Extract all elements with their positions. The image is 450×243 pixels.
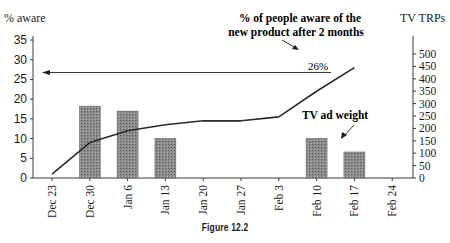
annotation-title-line2: new product after 2 months <box>228 26 364 39</box>
reference-label-26-percent: 26% <box>308 60 328 72</box>
bar <box>306 138 327 178</box>
annotation-tv-ad-weight: TV ad weight <box>302 109 368 122</box>
right-axis-tick-label: 0 <box>419 172 425 184</box>
left-axis-tick-label: 0 <box>20 171 27 185</box>
x-axis-tick-label: Jan 13 <box>159 185 171 215</box>
right-axis-tick-label: 200 <box>419 122 437 134</box>
right-axis: 050100150200250300350400450500 <box>413 36 437 184</box>
left-axis-tick-label: 25 <box>14 72 28 86</box>
annotation-pointer-arrow-icon <box>282 40 299 50</box>
left-axis: 05101520253035 <box>14 33 33 185</box>
x-axis: Dec 23Dec 30Jan 6Jan 13Jan 20Jan 27Feb 3… <box>33 178 413 218</box>
figure-caption: Figure 12.2 <box>34 222 417 233</box>
x-axis-tick-label: Dec 23 <box>46 185 58 218</box>
left-axis-tick-label: 30 <box>14 53 28 67</box>
reference-arrow-26-percent <box>42 70 331 75</box>
tv-ad-weight-pointer-arrow-icon <box>341 125 354 139</box>
right-axis-tick-label: 50 <box>419 160 431 172</box>
bar <box>344 152 365 178</box>
bar <box>155 138 176 178</box>
right-axis-tick-label: 100 <box>419 147 437 159</box>
right-axis-tick-label: 450 <box>419 60 437 72</box>
right-axis-tick-label: 150 <box>419 135 437 147</box>
right-axis-tick-label: 250 <box>419 110 437 122</box>
left-axis-tick-label: 20 <box>14 92 28 106</box>
left-axis-tick-label: 5 <box>20 151 27 165</box>
x-axis-tick-label: Jan 27 <box>235 185 247 215</box>
x-axis-tick-label: Feb 10 <box>311 185 323 217</box>
right-axis-title: TV TRPs <box>400 11 446 25</box>
x-axis-tick-label: Feb 17 <box>348 185 360 217</box>
right-axis-tick-label: 400 <box>419 73 437 85</box>
x-axis-tick-label: Feb 3 <box>273 185 285 211</box>
x-axis-tick-label: Feb 24 <box>386 185 398 217</box>
left-axis-tick-label: 35 <box>14 33 28 47</box>
right-axis-tick-label: 350 <box>419 85 437 97</box>
bar <box>117 111 138 178</box>
right-axis-tick-label: 500 <box>419 48 437 60</box>
x-axis-tick-label: Jan 6 <box>122 185 134 209</box>
x-axis-tick-label: Jan 20 <box>197 185 209 215</box>
left-axis-title: % aware <box>4 11 46 25</box>
x-axis-tick-label: Dec 30 <box>84 185 96 218</box>
annotation-title-line1: % of people aware of the <box>239 12 361 25</box>
chart-canvas: % aware TV TRPs 05101520253035 050100150… <box>0 0 450 243</box>
left-axis-tick-label: 15 <box>14 112 28 126</box>
left-axis-tick-label: 10 <box>14 132 28 146</box>
right-axis-tick-label: 300 <box>419 98 437 110</box>
